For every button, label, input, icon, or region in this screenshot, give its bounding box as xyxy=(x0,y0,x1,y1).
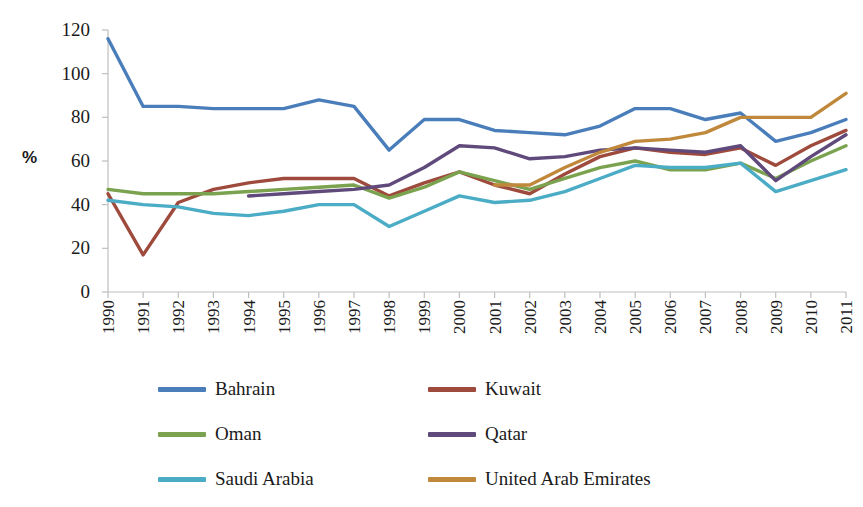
plot-svg xyxy=(108,30,846,292)
y-tick-100: 100 xyxy=(38,63,90,85)
x-tick-1993: 1993 xyxy=(204,300,224,334)
x-tick-1999: 1999 xyxy=(415,300,435,334)
legend-item-saudi-arabia[interactable]: Saudi Arabia xyxy=(158,468,314,490)
x-tick-1996: 1996 xyxy=(310,300,330,334)
x-tick-2008: 2008 xyxy=(732,300,752,334)
line-chart: % 020406080100120 1990199119921993199419… xyxy=(0,0,863,507)
plot-area xyxy=(108,30,846,292)
legend-item-qatar[interactable]: Qatar xyxy=(428,423,527,445)
x-tick-2003: 2003 xyxy=(556,300,576,334)
x-tick-1995: 1995 xyxy=(275,300,295,334)
legend-swatch-icon xyxy=(158,477,206,482)
y-tick-20: 20 xyxy=(38,237,90,259)
y-tick-40: 40 xyxy=(38,194,90,216)
x-tick-2002: 2002 xyxy=(521,300,541,334)
chart-legend: BahrainKuwaitOmanQatarSaudi ArabiaUnited… xyxy=(150,378,850,498)
y-tick-120: 120 xyxy=(38,19,90,41)
x-tick-1998: 1998 xyxy=(380,300,400,334)
legend-swatch-icon xyxy=(158,432,206,437)
y-tick-60: 60 xyxy=(38,150,90,172)
x-tick-2005: 2005 xyxy=(626,300,646,334)
legend-label: Kuwait xyxy=(485,378,541,400)
x-tick-2000: 2000 xyxy=(450,300,470,334)
x-tick-2011: 2011 xyxy=(837,300,857,333)
x-tick-1997: 1997 xyxy=(345,300,365,334)
legend-label: Bahrain xyxy=(215,378,275,400)
x-tick-2006: 2006 xyxy=(661,300,681,334)
x-tick-1991: 1991 xyxy=(134,300,154,334)
x-tick-1992: 1992 xyxy=(169,300,189,334)
x-tick-2004: 2004 xyxy=(591,300,611,334)
legend-swatch-icon xyxy=(428,432,476,437)
x-tick-2009: 2009 xyxy=(767,300,787,334)
y-axis-title: % xyxy=(22,148,37,168)
series-line-bahrain xyxy=(108,39,846,150)
legend-label: Saudi Arabia xyxy=(215,468,314,490)
legend-label: Qatar xyxy=(485,423,527,445)
y-tick-0: 0 xyxy=(38,281,90,303)
legend-item-united-arab-emirates[interactable]: United Arab Emirates xyxy=(428,468,651,490)
legend-label: United Arab Emirates xyxy=(485,468,651,490)
x-tick-1994: 1994 xyxy=(240,300,260,334)
legend-item-kuwait[interactable]: Kuwait xyxy=(428,378,541,400)
legend-swatch-icon xyxy=(428,477,476,482)
legend-item-bahrain[interactable]: Bahrain xyxy=(158,378,275,400)
legend-swatch-icon xyxy=(158,387,206,392)
legend-item-oman[interactable]: Oman xyxy=(158,423,261,445)
x-tick-2001: 2001 xyxy=(486,300,506,334)
x-tick-2010: 2010 xyxy=(802,300,822,334)
x-tick-2007: 2007 xyxy=(696,300,716,334)
legend-label: Oman xyxy=(215,423,261,445)
series-line-oman xyxy=(108,146,846,198)
x-tick-1990: 1990 xyxy=(99,300,119,334)
y-tick-80: 80 xyxy=(38,106,90,128)
y-axis-tick-labels: 020406080100120 xyxy=(38,0,90,507)
x-axis-tick-labels: 1990199119921993199419951996199719981999… xyxy=(108,296,846,386)
legend-swatch-icon xyxy=(428,387,476,392)
